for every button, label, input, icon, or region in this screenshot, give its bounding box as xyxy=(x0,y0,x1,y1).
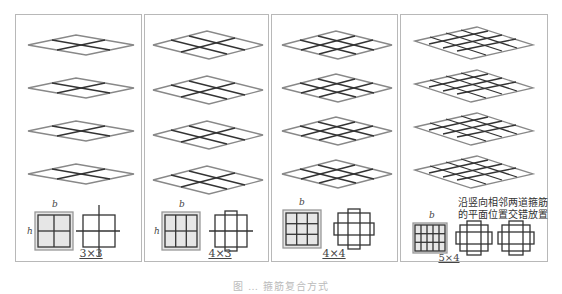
panel-3x3: b h 3×3 xyxy=(15,14,142,262)
stirrup-3x3-drawing: b h xyxy=(16,15,143,263)
note-line-1: 沿竖向相邻两道箍筋 xyxy=(458,197,548,209)
b-label: b xyxy=(52,199,58,209)
panel-label: 5×4 xyxy=(429,252,469,263)
panel-4x4: b 4×4 xyxy=(271,14,398,262)
stirrup-4x4-drawing: b xyxy=(272,15,399,263)
stirrup-5x4-drawing: b xyxy=(401,15,549,263)
layer xyxy=(28,35,134,55)
svg-text:b: b xyxy=(429,210,435,220)
note-line-2: 的平面位置交错放置 xyxy=(458,209,548,221)
stagger-note: 沿竖向相邻两道箍筋 的平面位置交错放置 xyxy=(458,197,548,221)
panel-label: 4×4 xyxy=(314,247,354,260)
panel-5x4: b 沿竖向相邻两道箍筋 的平面位置交错放置 5×4 xyxy=(400,14,548,262)
panel-4x3: b h 4×3 xyxy=(144,14,269,262)
stirrup-4x3-drawing: b h xyxy=(145,15,270,263)
svg-text:b: b xyxy=(299,197,305,207)
figure-caption: 图 … 箍筋复合方式 xyxy=(0,278,562,293)
svg-text:b: b xyxy=(179,199,185,209)
h-label: h xyxy=(27,226,33,236)
panel-label: 4×3 xyxy=(200,247,240,260)
panel-label: 3×3 xyxy=(71,247,111,260)
svg-text:h: h xyxy=(154,226,160,236)
